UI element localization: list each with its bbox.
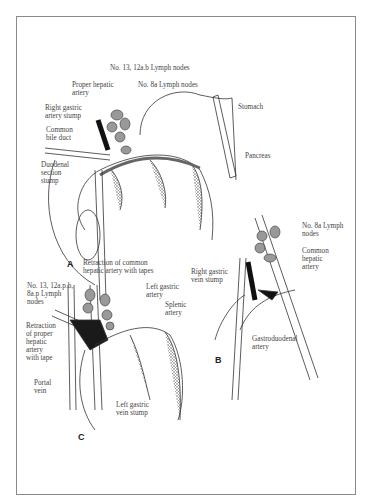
label-lymph-13-12ab: No. 13, 12a.b Lymph nodes <box>110 64 190 72</box>
label-proper-hepatic-artery: Proper hepatic artery <box>72 81 114 97</box>
label-retraction-common-hepatic: Retraction of common hepatic artery with… <box>83 259 153 275</box>
label-left-gastric-artery: Left gastric artery <box>146 283 179 299</box>
panel-label-b: B <box>215 355 222 365</box>
panel-label-a: A <box>67 259 74 269</box>
label-common-bile-duct: Common bile duct <box>46 126 73 142</box>
label-portal-vein: Portal vein <box>34 379 51 395</box>
panel-label-c: C <box>78 432 85 442</box>
label-pancreas: Pancreas <box>245 152 271 160</box>
label-duodenal-section-stump: Duodenal section stump <box>41 161 69 185</box>
label-lymph-8a: No. 8a Lymph nodes <box>138 81 198 89</box>
label-right-gastric-artery-stump: Right gastric artery stump <box>45 104 82 120</box>
label-splenic-artery: Splenic artery <box>165 301 187 317</box>
label-left-gastric-vein-stump: Left gastric vein stump <box>116 401 149 417</box>
label-common-hepatic-artery: Common hepatic artery <box>302 247 329 271</box>
label-right-gastric-vein-stump: Right gastric vein stump <box>191 268 228 284</box>
label-lymph-13-12apb-8ap: No. 13, 12a.p.b, 8a.p Lymph nodes <box>27 282 73 306</box>
label-stomach: Stomach <box>238 103 263 111</box>
label-b-lymph-8a: No. 8a Lymph nodes <box>302 222 343 238</box>
label-gastroduodenal-artery: Gastroduodenal artery <box>252 335 298 351</box>
label-retraction-proper-hepatic: Retraction of proper hepatic artery with… <box>26 322 56 362</box>
